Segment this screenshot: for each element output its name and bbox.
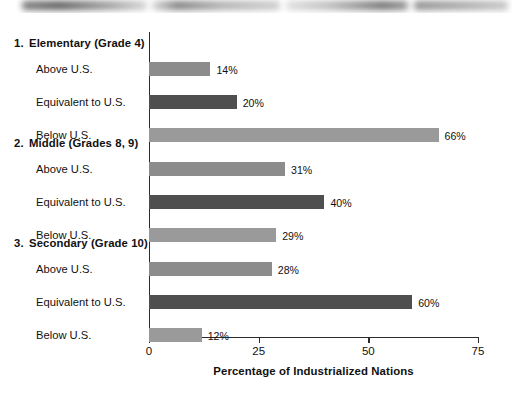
x-axis-title: Percentage of Industrialized Nations — [149, 365, 478, 377]
category-label: Equivalent to U.S. — [36, 196, 126, 208]
scan-smudge — [414, 1, 508, 10]
x-axis-tick-label: 50 — [362, 345, 375, 357]
bar-value-label: 12% — [208, 330, 229, 342]
group-heading-label: Elementary (Grade 4) — [29, 37, 145, 49]
bar-value-label: 14% — [216, 64, 237, 76]
category-label: Above U.S. — [36, 263, 93, 275]
group-heading: 3.Secondary (Grade 10) — [14, 237, 148, 249]
scan-smudge — [22, 1, 147, 10]
bar — [149, 295, 412, 309]
bar — [149, 228, 276, 242]
bar-value-label: 31% — [291, 164, 312, 176]
group-heading: 2.Middle (Grades 8, 9) — [14, 137, 138, 149]
bar — [149, 95, 237, 109]
scan-smudge — [286, 1, 408, 10]
category-label: Equivalent to U.S. — [36, 96, 126, 108]
bar-value-label: 20% — [243, 97, 264, 109]
bar — [149, 162, 285, 176]
category-label: Above U.S. — [36, 163, 93, 175]
group-number: 2. — [14, 137, 29, 149]
bar-value-label: 28% — [278, 264, 299, 276]
bar-value-label: 40% — [330, 197, 351, 209]
x-axis-tick-label: 75 — [472, 345, 485, 357]
bar-value-label: 66% — [445, 130, 466, 142]
bar — [149, 328, 202, 342]
x-axis-tick-label: 0 — [146, 345, 152, 357]
bar — [149, 195, 324, 209]
scan-artifact-strip — [0, 0, 512, 13]
plot-area: 0255075 1.Elementary (Grade 4)Above U.S.… — [0, 13, 512, 394]
group-number: 3. — [14, 237, 29, 249]
bar — [149, 128, 439, 142]
group-heading: 1.Elementary (Grade 4) — [14, 37, 145, 49]
category-label: Below U.S. — [36, 329, 91, 341]
bar-value-label: 60% — [418, 297, 439, 309]
group-heading-label: Secondary (Grade 10) — [29, 237, 148, 249]
x-axis-tick — [368, 337, 369, 343]
bar-value-label: 29% — [282, 230, 303, 242]
x-axis-tick-label: 25 — [252, 345, 265, 357]
bar-chart: 0255075 1.Elementary (Grade 4)Above U.S.… — [0, 13, 512, 394]
group-number: 1. — [14, 37, 29, 49]
scan-smudge — [152, 1, 280, 10]
bar — [149, 262, 272, 276]
category-label: Equivalent to U.S. — [36, 296, 126, 308]
x-axis-tick — [259, 337, 260, 343]
category-label: Above U.S. — [36, 63, 93, 75]
group-heading-label: Middle (Grades 8, 9) — [29, 137, 138, 149]
bar — [149, 62, 210, 76]
x-axis-tick — [478, 337, 479, 343]
y-axis-line — [149, 32, 150, 338]
